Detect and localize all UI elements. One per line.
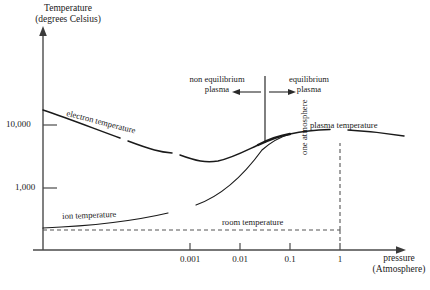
electron-temperature-curve-mid xyxy=(128,141,172,153)
y-axis-ticks xyxy=(43,125,57,188)
ion-temperature-curve-rise xyxy=(196,134,290,205)
chart-canvas xyxy=(0,0,430,290)
y-axis-arrowhead xyxy=(39,26,47,36)
equilibrium-line2: plasma xyxy=(272,84,346,94)
equilibrium-plasma-label: equilibrium plasma xyxy=(272,74,346,94)
y-axis xyxy=(39,26,47,250)
x-axis-title-line2: (Atmosphere) xyxy=(368,264,430,275)
x-axis xyxy=(33,246,406,254)
y-tick-label-10000: 10,000 xyxy=(6,119,31,130)
x-tick-label-1: 1 xyxy=(332,254,348,265)
plasma-temperature-curve xyxy=(290,130,330,135)
y-axis-title-line2: (degrees Celsius) xyxy=(16,14,120,25)
plasma-temperature-chart: Temperature (degrees Celsius) pressure (… xyxy=(0,0,430,290)
x-tick-label-01: 0.1 xyxy=(277,254,303,265)
equilibrium-line1: equilibrium xyxy=(272,74,346,84)
ion-temperature-label: ion temperature xyxy=(62,209,117,221)
non-equilibrium-plasma-label: non equilibrium plasma xyxy=(174,74,260,94)
room-temperature-label: room temperature xyxy=(222,217,283,227)
x-axis-ticks xyxy=(190,243,340,250)
x-axis-title-line1: pressure xyxy=(368,253,430,264)
plasma-temperature-curve-right xyxy=(348,130,404,136)
y-axis-title-line1: Temperature xyxy=(16,3,120,14)
plasma-temperature-label: plasma temperature xyxy=(310,120,378,130)
x-tick-label-001: 0.01 xyxy=(225,254,255,265)
non-equilibrium-line1: non equilibrium xyxy=(174,74,260,84)
x-tick-label-0001: 0.001 xyxy=(173,254,207,265)
plasma-label-leader xyxy=(338,131,348,136)
x-axis-title: pressure (Atmosphere) xyxy=(368,253,430,275)
y-axis-title: Temperature (degrees Celsius) xyxy=(16,3,120,25)
one-atmosphere-label: one atmosphere xyxy=(299,99,309,155)
non-equilibrium-line2: plasma xyxy=(174,84,260,94)
electron-temperature-curve-min xyxy=(180,145,258,162)
y-tick-label-1000: 1,000 xyxy=(15,182,35,193)
